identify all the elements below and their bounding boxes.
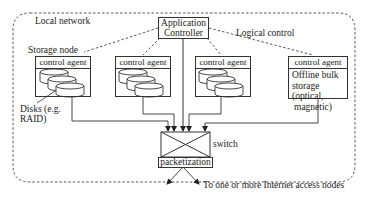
control-agent-header: control agent	[36, 57, 90, 69]
offline-storage-node: control agent Offline bulk storage (opti…	[288, 56, 348, 99]
storage-node-2: control agent	[115, 56, 171, 97]
storage-node-1: control agent	[35, 56, 91, 97]
control-agent-header: control agent	[116, 57, 170, 69]
controller-line1: Application	[159, 18, 208, 28]
data-links	[72, 96, 318, 131]
switch-box	[161, 132, 210, 157]
output-arrows	[167, 167, 199, 184]
offline-line3: (optical,	[292, 91, 339, 102]
switch-label: switch	[213, 139, 238, 149]
local-network-label: Local network	[35, 16, 90, 26]
offline-line4: magnetic)	[292, 102, 339, 113]
offline-line1: Offline bulk	[292, 70, 339, 81]
offline-line2: storage	[292, 81, 339, 92]
application-controller: Application Controller	[158, 17, 209, 39]
disks-label-line1: Disks (e.g.	[20, 104, 61, 114]
disks-label-line2: RAID)	[20, 114, 46, 124]
packetization-box: packetization	[158, 157, 213, 168]
offline-storage-text: Offline bulk storage (optical, magnetic)	[292, 70, 339, 112]
control-agent-header: control agent	[289, 57, 347, 69]
control-agent-header: control agent	[196, 57, 250, 69]
controller-line2: Controller	[159, 28, 208, 38]
storage-node-label: Storage node	[28, 45, 78, 55]
storage-node-3: control agent	[195, 56, 251, 97]
output-label: To one or more Internet access nodes	[203, 180, 344, 190]
logical-control-label: Logical control	[236, 28, 294, 38]
